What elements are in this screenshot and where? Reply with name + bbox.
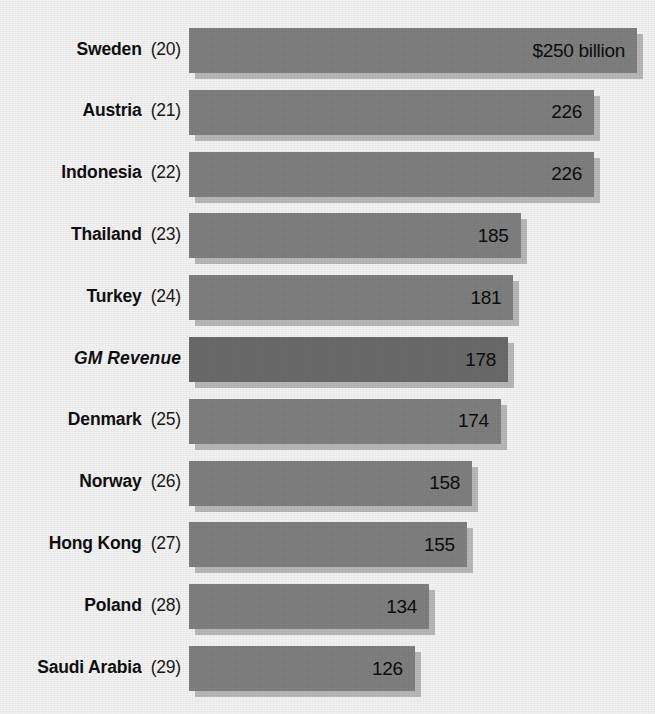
bar-value-label: $250 billion	[532, 40, 637, 62]
category-rank: (29)	[151, 657, 181, 678]
category-rank: (21)	[151, 100, 181, 121]
bar-container: 134	[189, 584, 429, 629]
bar-value-label: 185	[478, 225, 521, 247]
category-name: Indonesia	[61, 162, 141, 183]
category-rank: (20)	[151, 39, 181, 60]
bar-row: Thailand(23)185	[0, 210, 655, 258]
bar-value-label: 126	[372, 658, 415, 680]
category-rank: (27)	[151, 533, 181, 554]
row-label: Indonesia(22)	[0, 149, 181, 197]
bar-value-label: 226	[551, 163, 594, 185]
bar: 174	[189, 399, 501, 444]
bar: 181	[189, 275, 513, 320]
category-name: Hong Kong	[49, 533, 142, 554]
bar: 155	[189, 522, 467, 567]
bar-row: Poland(28)134	[0, 581, 655, 629]
row-label: Saudi Arabia(29)	[0, 643, 181, 691]
bar-row: Norway(26)158	[0, 458, 655, 506]
bar-value-label: 174	[458, 410, 501, 432]
category-name: Poland	[84, 595, 141, 616]
bar-container: 126	[189, 646, 415, 691]
row-label: Norway(26)	[0, 458, 181, 506]
category-name: Austria	[82, 100, 141, 121]
bar-value-label: 134	[386, 596, 429, 618]
bar-row: Hong Kong(27)155	[0, 519, 655, 567]
category-name: Thailand	[71, 224, 142, 245]
bar-container: $250 billion	[189, 28, 637, 73]
bar-row: Turkey(24)181	[0, 272, 655, 320]
bar-value-label: 178	[465, 349, 508, 371]
bar: 226	[189, 90, 594, 135]
bar-row: Austria(21)226	[0, 87, 655, 135]
category-rank: (26)	[151, 471, 181, 492]
row-label: GM Revenue	[0, 334, 181, 382]
row-label: Hong Kong(27)	[0, 519, 181, 567]
bar-row: Indonesia(22)226	[0, 149, 655, 197]
row-label: Austria(21)	[0, 87, 181, 135]
category-name: Saudi Arabia	[37, 657, 142, 678]
row-label: Poland(28)	[0, 581, 181, 629]
bar: $250 billion	[189, 28, 637, 73]
bar-value-label: 158	[429, 472, 472, 494]
bar-container: 181	[189, 275, 513, 320]
bar-container: 155	[189, 522, 467, 567]
bar-chart: (19) Sweden(20)$250 billionAustria(21)22…	[0, 0, 655, 714]
bar-row: Saudi Arabia(29)126	[0, 643, 655, 691]
category-name: Sweden	[76, 39, 141, 60]
bar-row: Denmark(25)174	[0, 396, 655, 444]
category-rank: (24)	[151, 286, 181, 307]
bar-value-label: 155	[424, 534, 467, 556]
bar-highlight: 178	[189, 337, 508, 382]
row-label: Turkey(24)	[0, 272, 181, 320]
category-rank: (23)	[151, 224, 181, 245]
bar-container: 174	[189, 399, 501, 444]
bar: 226	[189, 152, 594, 197]
category-rank: (22)	[151, 162, 181, 183]
bar-container: 185	[189, 213, 521, 258]
bar-row: GM Revenue178	[0, 334, 655, 382]
category-name: Turkey	[86, 286, 141, 307]
row-label: Sweden(20)	[0, 25, 181, 73]
bar: 158	[189, 461, 472, 506]
bar: 185	[189, 213, 521, 258]
category-name: GM Revenue	[74, 348, 181, 369]
row-label: Thailand(23)	[0, 210, 181, 258]
clipped-top-row: (19)	[0, 0, 655, 4]
clipped-row-label: (19)	[0, 0, 181, 4]
category-rank: (25)	[151, 409, 181, 430]
category-rank: (28)	[151, 595, 181, 616]
bar-value-label: 181	[471, 287, 514, 309]
bar: 134	[189, 584, 429, 629]
bar-container: 226	[189, 152, 594, 197]
bar-value-label: 226	[551, 101, 594, 123]
row-label: Denmark(25)	[0, 396, 181, 444]
bar: 126	[189, 646, 415, 691]
bar-container: 158	[189, 461, 472, 506]
bar-container: 178	[189, 337, 508, 382]
category-name: Norway	[79, 471, 141, 492]
bar-container: 226	[189, 90, 594, 135]
bar-row: Sweden(20)$250 billion	[0, 25, 655, 73]
category-name: Denmark	[68, 409, 142, 430]
